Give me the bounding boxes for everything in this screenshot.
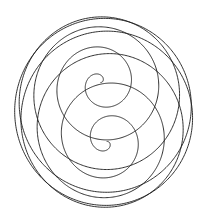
spiral-figure [0, 0, 201, 217]
background [0, 0, 201, 217]
